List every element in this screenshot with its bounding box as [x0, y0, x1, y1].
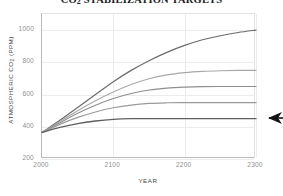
y-axis-tick-label: 200: [0, 154, 34, 161]
chart-container: CO2 STABILIZATION TARGETS ATMOSPHERIC CO…: [0, 0, 283, 196]
y-axis-tick-label: 1000: [0, 25, 34, 32]
gridline-vertical: [256, 14, 257, 157]
y-axis-tick-label: 800: [0, 57, 34, 64]
plot-area: [41, 13, 255, 158]
plot-inner: [42, 14, 254, 157]
y-axis-label: ATMOSPHERIC CO2 (PPM): [7, 25, 15, 135]
x-axis-tick-label: 2200: [164, 161, 204, 168]
y-axis-tick-label: 600: [0, 90, 34, 97]
target-arrow-icon: [256, 107, 283, 129]
x-axis-label: YEAR: [41, 177, 255, 184]
y-axis-tick-label: 400: [0, 122, 34, 129]
chart-title-rest: STABILIZATION TARGETS: [81, 0, 222, 5]
data-line: [42, 103, 256, 133]
chart-title-main: CO: [61, 0, 77, 5]
gridline-horizontal: [42, 159, 254, 160]
data-line: [42, 70, 256, 132]
data-line: [42, 119, 256, 133]
chart-title: CO2 STABILIZATION TARGETS: [0, 0, 283, 6]
x-axis-tick-label: 2100: [92, 161, 132, 168]
x-axis-tick-label: 2300: [235, 161, 275, 168]
data-curves: [42, 14, 256, 159]
data-line: [42, 30, 256, 132]
y-axis-label-rest: (PPM): [7, 36, 14, 58]
x-axis-tick-label: 2000: [21, 161, 61, 168]
